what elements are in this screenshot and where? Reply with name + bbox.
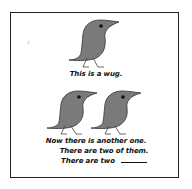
caption-two-of-them: There are two of them. bbox=[0, 147, 192, 156]
wug-bird-icon-right bbox=[90, 90, 142, 138]
answer-blank bbox=[121, 157, 147, 163]
caption-another-one: Now there is another one. bbox=[0, 137, 192, 146]
caption-there-are-two-text: There are two bbox=[61, 157, 115, 165]
wug-bird-icon bbox=[68, 18, 120, 70]
caption-there-are-two: There are two bbox=[0, 157, 192, 166]
caption-this-is-a-wug: This is a wug. bbox=[0, 70, 192, 79]
